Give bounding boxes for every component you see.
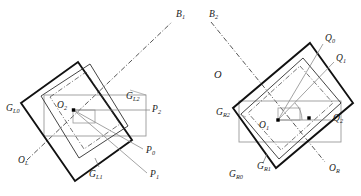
origin-point-right: [276, 118, 279, 121]
label-o-r: OR: [329, 164, 340, 174]
label-o-2: O2: [57, 101, 67, 111]
label-o-1: O1: [259, 121, 269, 131]
label-o-center: O: [214, 70, 222, 81]
angle-arc-right: [295, 103, 302, 120]
label-q-1: Q1: [336, 54, 346, 64]
label-q-2: Q2: [333, 114, 343, 124]
label-g-r2: GR2: [216, 108, 230, 118]
label-b-1: B1: [176, 10, 185, 20]
label-g-l1: GL1: [89, 170, 102, 180]
label-g-r0: GR0: [229, 170, 243, 180]
leader-q1-right: [278, 62, 334, 120]
label-p-1: P1: [150, 170, 159, 180]
label-g-r1: GR1: [257, 162, 271, 172]
leader-p1-left: [74, 110, 148, 173]
left-configuration: [21, 22, 172, 181]
label-o-l: OL: [18, 156, 28, 166]
geometry-figure: [0, 0, 361, 196]
label-q-0: Q0: [325, 34, 335, 44]
label-g-l2: GL2: [126, 92, 139, 102]
corner-point-right: [307, 116, 310, 119]
diagram-canvas: GL0 GL2 O2 OL GL1 P2 P0 P1 B1 O B2 GR2 O…: [0, 0, 361, 196]
label-b-2: B2: [209, 10, 218, 20]
label-g-l0: GL0: [6, 104, 19, 114]
leader-q0-right: [278, 44, 323, 120]
origin-point-left: [72, 108, 75, 111]
thick-rotated-box-left: [21, 62, 132, 181]
leader-p0-left: [74, 110, 144, 149]
label-p-0: P0: [146, 146, 155, 156]
label-p-2: P2: [152, 105, 161, 115]
thin-rotated-box-right: [241, 58, 341, 159]
